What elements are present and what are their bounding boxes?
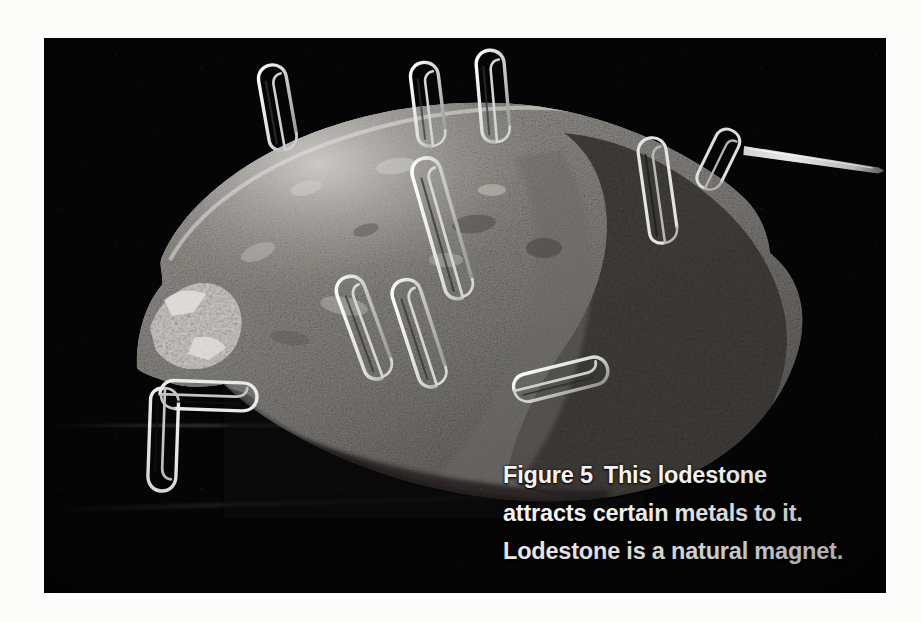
sewing-needle — [743, 146, 886, 174]
caption-text-1: This lodestone — [604, 462, 767, 488]
lodestone-photograph: Figure 5This lodestone attracts certain … — [44, 38, 886, 593]
rock-body — [124, 93, 824, 518]
figure-page: Figure 5This lodestone attracts certain … — [0, 0, 921, 622]
figure-number: Figure 5 — [503, 462, 593, 488]
paper-clip — [256, 63, 299, 153]
caption-line-2: attracts certain metals to it. — [503, 494, 873, 532]
caption-line-1: Figure 5This lodestone — [503, 456, 873, 494]
caption-line-3: Lodestone is a natural magnet. — [503, 532, 873, 570]
figure-caption: Figure 5This lodestone attracts certain … — [503, 456, 873, 570]
